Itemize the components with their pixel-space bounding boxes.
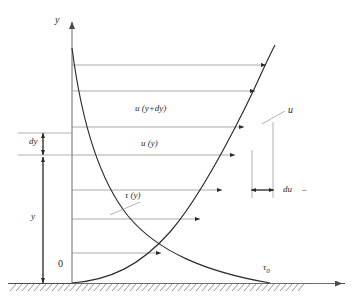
velocity-curve-label: u <box>288 104 293 115</box>
du-dimension-label: du <box>283 184 292 194</box>
du-trailing-dash: – <box>302 184 307 194</box>
u-leader-line <box>262 111 285 124</box>
wall-ground <box>8 284 345 292</box>
dy-dimension-label: dy <box>29 136 38 146</box>
origin-label: 0 <box>58 258 63 269</box>
velocity-upper-label: u (y+dy) <box>135 103 166 113</box>
figure-canvas: y 0 u (y+dy) u (y) τ (y) u dy y du – τ0 <box>0 0 353 302</box>
shear-curve-label: τ (y) <box>125 190 140 200</box>
du-dimension <box>251 122 274 198</box>
wall-shear-subscript: 0 <box>266 267 270 275</box>
wall-shear-label: τ0 <box>263 262 270 275</box>
shear-stress-curve <box>72 48 270 283</box>
velocity-arrow-rows <box>72 65 266 253</box>
dy-dimension <box>18 133 72 155</box>
y-dimension-label: y <box>31 211 35 221</box>
velocity-lower-label: u (y) <box>141 138 158 148</box>
y-axis-label: y <box>55 14 59 25</box>
velocity-profile-curve <box>72 45 275 283</box>
diagram-svg <box>0 0 353 302</box>
